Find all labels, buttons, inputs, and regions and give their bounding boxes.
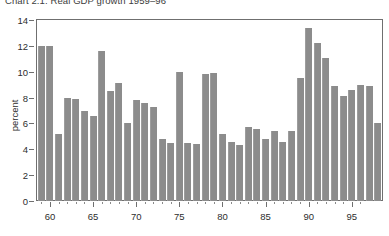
bar bbox=[133, 100, 140, 201]
x-minor-tick-mark bbox=[171, 202, 172, 204]
bar bbox=[150, 107, 157, 201]
y-tick-label: 4 bbox=[23, 144, 28, 155]
x-tick-label: 85 bbox=[260, 211, 271, 222]
bar bbox=[305, 28, 312, 201]
bar bbox=[46, 46, 53, 201]
y-tick-mark bbox=[29, 98, 34, 99]
bar bbox=[159, 139, 166, 201]
x-tick-mark bbox=[352, 202, 353, 207]
y-axis-title: percent bbox=[9, 86, 20, 146]
x-tick-label: 75 bbox=[174, 211, 185, 222]
bar bbox=[72, 99, 79, 201]
y-tick-mark bbox=[29, 123, 34, 124]
bar bbox=[167, 143, 174, 201]
bar bbox=[357, 85, 364, 201]
x-minor-tick-mark bbox=[41, 202, 42, 204]
y-tick-mark bbox=[29, 175, 34, 176]
bar bbox=[340, 96, 347, 201]
bar bbox=[115, 83, 122, 201]
bar bbox=[279, 142, 286, 201]
x-minor-tick-mark bbox=[343, 202, 344, 204]
x-minor-tick-mark bbox=[197, 202, 198, 204]
bar bbox=[245, 127, 252, 201]
bar bbox=[193, 144, 200, 201]
bar bbox=[374, 123, 381, 201]
x-minor-tick-mark bbox=[205, 202, 206, 204]
x-tick-mark bbox=[50, 202, 51, 207]
chart-container: Chart 2.1: Real GDP growth 1959–96 perce… bbox=[0, 0, 389, 236]
bar bbox=[107, 91, 114, 201]
x-tick-label: 70 bbox=[131, 211, 142, 222]
x-tick-mark bbox=[309, 202, 310, 207]
bar bbox=[288, 131, 295, 201]
bar bbox=[236, 145, 243, 201]
bar bbox=[253, 129, 260, 201]
y-tick-mark bbox=[29, 46, 34, 47]
y-tick-mark bbox=[29, 149, 34, 150]
x-minor-tick-mark bbox=[274, 202, 275, 204]
y-tick-label: 8 bbox=[23, 92, 28, 103]
y-tick-mark bbox=[29, 72, 34, 73]
bar bbox=[262, 139, 269, 201]
x-minor-tick-mark bbox=[257, 202, 258, 204]
bar bbox=[184, 143, 191, 201]
x-minor-tick-mark bbox=[84, 202, 85, 204]
x-tick-label: 90 bbox=[303, 211, 314, 222]
x-tick-label: 80 bbox=[217, 211, 228, 222]
bar bbox=[81, 111, 88, 202]
x-minor-tick-mark bbox=[248, 202, 249, 204]
bar bbox=[366, 86, 373, 201]
x-minor-tick-mark bbox=[145, 202, 146, 204]
x-minor-tick-mark bbox=[102, 202, 103, 204]
y-tick-label: 12 bbox=[17, 40, 28, 51]
y-tick-label: 14 bbox=[17, 15, 28, 26]
x-minor-tick-mark bbox=[317, 202, 318, 204]
x-tick-mark bbox=[93, 202, 94, 207]
bar bbox=[90, 116, 97, 201]
bar bbox=[228, 142, 235, 201]
x-minor-tick-mark bbox=[153, 202, 154, 204]
x-minor-tick-mark bbox=[67, 202, 68, 204]
bar-series bbox=[37, 20, 382, 201]
bar bbox=[210, 73, 217, 201]
x-minor-tick-mark bbox=[335, 202, 336, 204]
x-minor-tick-mark bbox=[360, 202, 361, 204]
bar bbox=[38, 46, 45, 201]
bar bbox=[64, 98, 71, 201]
bar bbox=[124, 123, 131, 201]
bar bbox=[202, 74, 209, 201]
x-tick-mark bbox=[222, 202, 223, 207]
bar bbox=[348, 90, 355, 201]
y-tick-label: 2 bbox=[23, 170, 28, 181]
bar bbox=[331, 86, 338, 201]
x-minor-tick-mark bbox=[283, 202, 284, 204]
x-minor-tick-mark bbox=[162, 202, 163, 204]
x-minor-tick-mark bbox=[300, 202, 301, 204]
y-tick-label: 10 bbox=[17, 66, 28, 77]
x-tick-label: 65 bbox=[88, 211, 99, 222]
bar bbox=[271, 131, 278, 201]
bar bbox=[55, 134, 62, 201]
y-tick-label: 6 bbox=[23, 118, 28, 129]
x-minor-tick-mark bbox=[231, 202, 232, 204]
bar bbox=[322, 58, 329, 202]
x-tick-mark bbox=[179, 202, 180, 207]
x-minor-tick-mark bbox=[240, 202, 241, 204]
bar bbox=[219, 134, 226, 201]
bar bbox=[314, 43, 321, 201]
x-tick-mark bbox=[136, 202, 137, 207]
y-tick-mark bbox=[29, 20, 34, 21]
x-tick-mark bbox=[266, 202, 267, 207]
x-minor-tick-mark bbox=[128, 202, 129, 204]
x-tick-label: 60 bbox=[45, 211, 56, 222]
x-minor-tick-mark bbox=[188, 202, 189, 204]
x-minor-tick-mark bbox=[214, 202, 215, 204]
x-tick-label: 95 bbox=[347, 211, 358, 222]
x-minor-tick-mark bbox=[59, 202, 60, 204]
x-minor-tick-mark bbox=[110, 202, 111, 204]
x-minor-tick-mark bbox=[76, 202, 77, 204]
x-minor-tick-mark bbox=[291, 202, 292, 204]
bar bbox=[176, 72, 183, 201]
bar bbox=[141, 103, 148, 201]
x-minor-tick-mark bbox=[119, 202, 120, 204]
